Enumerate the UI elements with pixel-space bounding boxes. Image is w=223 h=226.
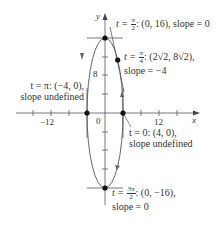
point-pi-over-4	[115, 57, 120, 62]
y-tick-label-8: 8	[93, 69, 98, 79]
point-pi	[84, 110, 89, 115]
point-3pi-over-2	[102, 185, 107, 190]
direction-arrow-icon	[80, 53, 84, 60]
annotation-pi: t = π: (−4, 0), slope undefined	[6, 80, 84, 102]
x-tick-label-0: 0	[96, 116, 101, 126]
y-axis-label: y	[96, 11, 100, 21]
x-axis-label: x	[192, 115, 196, 125]
y-axis-arrow-icon	[103, 13, 108, 20]
annotation-pi-over-4: t = π4: (2√2, 8√2), slope = −4	[124, 50, 194, 76]
direction-arrow-icon	[115, 165, 120, 170]
point-pi-over-2	[102, 35, 107, 40]
annotation-zero: t = 0: (4, 0), slope undefined	[129, 127, 193, 149]
x-tick-label-neg12: −12	[40, 117, 54, 127]
point-zero	[120, 110, 125, 115]
annotation-3pi-over-2: t = 3π2: (0, −16), slope = 0	[112, 186, 176, 212]
x-tick-label-12: 12	[154, 117, 163, 127]
annotation-pi-over-2: t = π2: (0, 16), slope = 0	[116, 17, 210, 32]
